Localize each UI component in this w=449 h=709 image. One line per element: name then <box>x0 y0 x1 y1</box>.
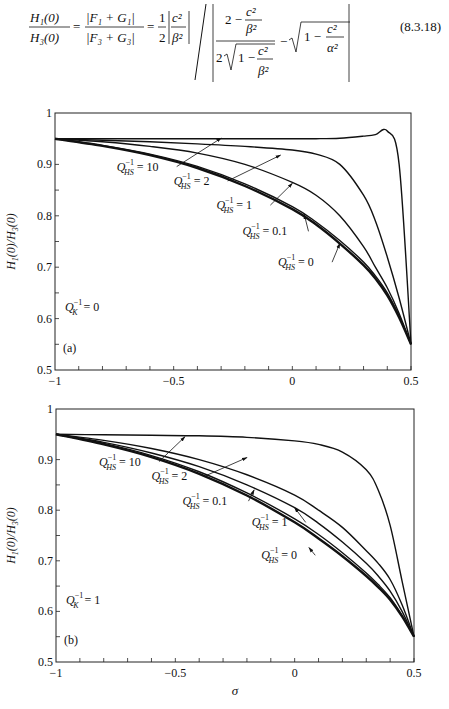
x-tick-label: −0.5 <box>164 666 186 680</box>
chart-panel-a: −1−0.500.50.50.60.70.80.91H1(0)/H3(0)Q−1… <box>0 88 449 393</box>
eq-mid-denominator: |F₃ + G₃| <box>86 30 135 45</box>
panel-label: (a) <box>63 341 76 355</box>
chart-panel-b: −1−0.500.50.50.60.70.80.91H1(0)/H3(0)σQ−… <box>0 393 449 709</box>
x-axis-label: σ <box>232 683 239 698</box>
svg-text:=: = <box>147 19 154 34</box>
eq-lhs-denominator: H₃(0) <box>29 30 59 45</box>
svg-text:c²: c² <box>258 43 269 58</box>
svg-text:Q−1HS = 2: Q−1HS = 2 <box>151 467 187 486</box>
equation-number: (8.3.18) <box>400 19 441 34</box>
svg-text:Q−1HS = 0: Q−1HS = 0 <box>278 253 314 272</box>
svg-text:β²: β² <box>245 21 257 36</box>
y-tick-label: 0.5 <box>38 655 53 669</box>
x-tick-label: −0.5 <box>163 374 185 388</box>
series-curve <box>55 139 411 345</box>
y-tick-label: 0.6 <box>38 604 53 618</box>
svg-text:β²: β² <box>171 30 183 45</box>
qk-annotation: Q−1K= 0 <box>65 298 99 317</box>
x-tick-label: 0 <box>292 666 298 680</box>
arrow-icon <box>177 138 221 166</box>
curve-label: Q−1HS = 0 <box>261 546 315 565</box>
arrow-icon <box>228 155 281 181</box>
svg-text:1: 1 <box>159 10 166 25</box>
svg-text:Q−1HS = 10: Q−1HS = 10 <box>99 453 141 472</box>
svg-text:Q−1HS = 0: Q−1HS = 0 <box>261 546 297 565</box>
curve-label: Q−1HS = 2 <box>174 155 281 191</box>
series-curve <box>55 139 411 345</box>
eq-lhs-numerator: H₁(0) <box>29 10 59 25</box>
y-tick-label: 0.8 <box>37 209 52 223</box>
svg-text:2: 2 <box>216 50 223 65</box>
series-curve <box>55 139 411 345</box>
y-axis-label: H1(0)/H3(0) <box>4 507 20 565</box>
svg-text:c²: c² <box>172 10 183 25</box>
svg-text:Q−1HS = 1: Q−1HS = 1 <box>216 196 252 215</box>
y-tick-label: 1 <box>47 402 53 416</box>
x-tick-label: 0 <box>289 374 295 388</box>
x-tick-label: 0.5 <box>404 374 419 388</box>
arrow-icon <box>332 244 340 263</box>
svg-text:α²: α² <box>327 40 339 55</box>
y-tick-label: 0.5 <box>37 363 52 377</box>
series-curve <box>55 139 411 345</box>
qk-annotation: Q−1K= 1 <box>66 591 100 610</box>
svg-text:Q−1HS = 10: Q−1HS = 10 <box>117 158 159 177</box>
x-tick-label: 0.5 <box>407 666 422 680</box>
svg-text:c²: c² <box>327 21 338 36</box>
svg-text:β²: β² <box>257 63 269 78</box>
svg-text:c²: c² <box>246 4 257 19</box>
svg-text:2: 2 <box>159 30 166 45</box>
y-tick-label: 1 <box>46 106 52 120</box>
svg-text:Q−1HS = 0.1: Q−1HS = 0.1 <box>242 222 287 241</box>
curve-label: Q−1HS = 0.1 <box>242 214 308 241</box>
y-tick-label: 0.7 <box>37 260 52 274</box>
svg-text:2 −: 2 − <box>225 12 242 27</box>
arrow-icon <box>309 548 315 556</box>
svg-text:1 −: 1 − <box>304 29 321 44</box>
y-tick-label: 0.9 <box>38 453 53 467</box>
y-tick-label: 0.6 <box>37 312 52 326</box>
y-tick-label: 0.9 <box>37 157 52 171</box>
svg-text:Q−1HS = 2: Q−1HS = 2 <box>174 172 210 191</box>
equation-8-3-18: H₁(0) H₃(0) = |F₁ + G₁| |F₃ + G₃| = 1 2 … <box>0 0 449 88</box>
curve-label: Q−1HS = 0 <box>278 244 340 273</box>
svg-text:−: − <box>280 34 287 49</box>
svg-text:1 −: 1 − <box>238 50 255 65</box>
y-axis-label: H1(0)/H3(0) <box>4 213 20 271</box>
panel-label: (b) <box>64 633 78 647</box>
svg-text:Q−1HS = 0.1: Q−1HS = 0.1 <box>182 492 227 511</box>
plot-frame <box>55 113 411 370</box>
y-tick-label: 0.7 <box>38 554 53 568</box>
svg-text:Q−1HS = 1: Q−1HS = 1 <box>252 513 288 532</box>
eq-mid-numerator: |F₁ + G₁| <box>86 10 135 25</box>
y-tick-label: 0.8 <box>38 503 53 517</box>
svg-text:=: = <box>73 19 80 34</box>
arrow-icon <box>270 183 292 205</box>
